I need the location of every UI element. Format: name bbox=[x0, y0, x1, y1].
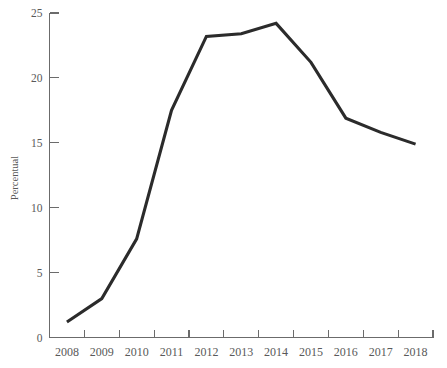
x-tick-label: 2017 bbox=[369, 345, 393, 359]
x-tick-label: 2010 bbox=[125, 345, 149, 359]
y-tick-label: 0 bbox=[37, 332, 43, 344]
data-series-line bbox=[67, 23, 416, 322]
y-axis-title: Percentual bbox=[9, 156, 20, 200]
x-tick-label: 2016 bbox=[334, 345, 358, 359]
y-tick-label: 20 bbox=[31, 72, 43, 84]
x-tick-label: 2013 bbox=[229, 345, 253, 359]
x-axis-tick-labels: 2008200920102011201220132014201520162017… bbox=[55, 345, 428, 359]
x-axis-ticks bbox=[84, 330, 433, 338]
chart-canvas: 0510152025 20082009201020112012201320142… bbox=[0, 0, 447, 368]
x-tick-label: 2011 bbox=[160, 345, 184, 359]
y-axis-ticks bbox=[50, 13, 59, 338]
y-tick-label: 10 bbox=[31, 202, 43, 214]
y-tick-label: 25 bbox=[31, 7, 43, 19]
line-chart-figure: 0510152025 20082009201020112012201320142… bbox=[0, 0, 447, 368]
y-tick-label: 15 bbox=[31, 137, 43, 149]
x-tick-label: 2009 bbox=[90, 345, 114, 359]
x-tick-label: 2015 bbox=[299, 345, 323, 359]
x-tick-label: 2012 bbox=[194, 345, 218, 359]
y-tick-label: 5 bbox=[37, 267, 43, 279]
y-axis-tick-labels: 0510152025 bbox=[31, 7, 43, 344]
x-tick-label: 2008 bbox=[55, 345, 79, 359]
x-tick-label: 2018 bbox=[404, 345, 428, 359]
x-tick-label: 2014 bbox=[264, 345, 288, 359]
